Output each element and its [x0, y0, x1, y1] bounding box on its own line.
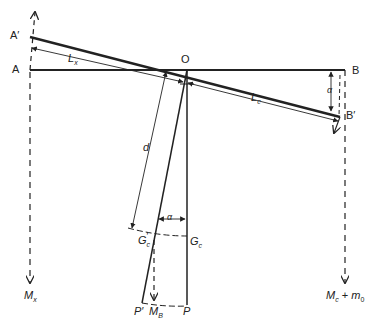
g-arc	[128, 228, 187, 236]
label-o: O	[181, 54, 190, 65]
left-dashed-up	[30, 12, 35, 70]
label-alpha-top: α	[327, 86, 332, 95]
tilted-line-op-prime	[142, 70, 187, 303]
lx-dimension	[32, 48, 183, 82]
label-b: B	[352, 65, 359, 76]
label-p-prime: P′	[134, 306, 143, 317]
label-d: d	[143, 142, 149, 153]
right-dashed-short	[339, 75, 340, 117]
label-a-prime: A′	[10, 30, 19, 41]
b-prime-arrow	[334, 117, 340, 133]
label-gc-prime: Gc′	[138, 235, 152, 248]
label-gc: Gc	[190, 236, 202, 249]
lc-dimension	[188, 83, 338, 121]
label-lc: Lc	[251, 92, 261, 105]
label-a: A	[12, 64, 19, 75]
label-lx: Lx	[68, 53, 78, 66]
label-mb: MB	[149, 306, 163, 319]
label-alpha-bottom: α	[167, 213, 172, 222]
label-mx: Mx	[24, 290, 37, 303]
label-b-prime: B′	[346, 110, 355, 121]
label-mc-m0: Mc + m0	[326, 290, 364, 303]
balance-diagram	[0, 0, 372, 323]
label-p: P	[183, 306, 190, 317]
